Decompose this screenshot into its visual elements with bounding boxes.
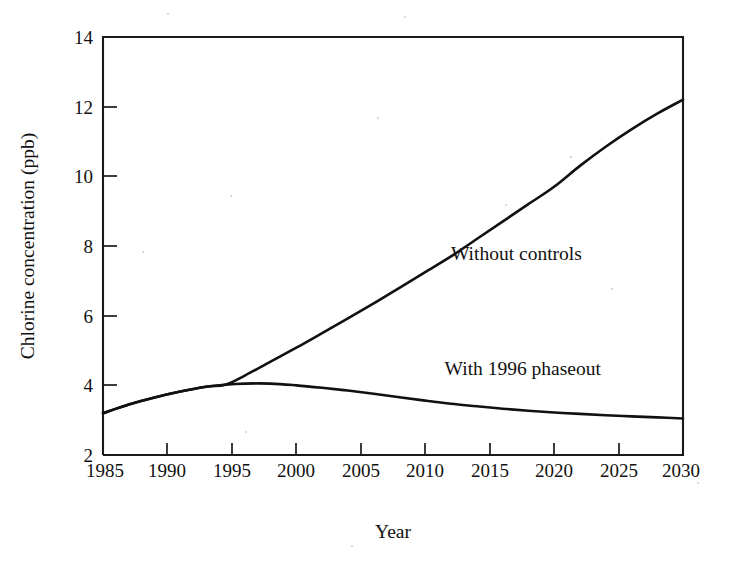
chart-canvas: 14 12 10 8 6 4 2 1985 1990 1995 2000 (0, 0, 731, 578)
x-tick-label: 1995 (213, 460, 251, 481)
series-with-phaseout-line (103, 383, 683, 418)
x-tick-label: 2000 (277, 460, 315, 481)
x-axis-ticks (103, 443, 683, 455)
x-tick-label: 2025 (600, 460, 638, 481)
x-tick-label: 1985 (86, 460, 124, 481)
y-tick-label: 12 (74, 97, 93, 118)
y-axis-title: Chlorine concentration (ppb) (17, 133, 39, 359)
chart-figure: 14 12 10 8 6 4 2 1985 1990 1995 2000 (0, 0, 731, 578)
x-tick-label: 2005 (342, 460, 380, 481)
x-tick-label: 2020 (535, 460, 573, 481)
y-axis-ticks (103, 37, 117, 455)
plot-frame (103, 37, 683, 455)
x-tick-label: 2015 (471, 460, 509, 481)
y-tick-label: 10 (74, 166, 93, 187)
y-tick-label: 4 (84, 375, 94, 396)
series-label-with-phaseout: With 1996 phaseout (445, 358, 602, 379)
x-tick-label: 2010 (406, 460, 444, 481)
y-tick-label: 8 (84, 236, 94, 257)
series-label-without-controls: Without controls (451, 243, 582, 264)
x-axis-title: Year (375, 521, 411, 542)
y-tick-label: 14 (74, 27, 94, 48)
y-axis-tick-labels: 14 12 10 8 6 4 2 (74, 27, 94, 466)
x-tick-label: 1990 (148, 460, 186, 481)
x-tick-label: 2030 (662, 460, 700, 481)
y-tick-label: 6 (84, 306, 94, 327)
x-axis-tick-labels: 1985 1990 1995 2000 2005 2010 2015 2020 … (86, 460, 700, 481)
